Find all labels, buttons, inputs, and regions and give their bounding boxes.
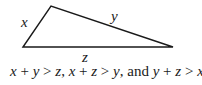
side-label-x: x	[21, 15, 28, 30]
caption-part: x	[10, 63, 17, 79]
triangle-shape	[23, 6, 173, 47]
caption-part: +	[17, 63, 33, 79]
caption-part: x	[197, 63, 202, 79]
caption-part: , and	[120, 63, 153, 79]
caption-part: >	[39, 63, 55, 79]
caption-part: +	[75, 63, 91, 79]
side-label-y: y	[111, 9, 118, 24]
caption-part: +	[159, 63, 175, 79]
caption-part: ,	[61, 63, 69, 79]
caption-part: y	[113, 63, 120, 79]
caption-part: >	[97, 63, 113, 79]
caption-part: >	[181, 63, 197, 79]
triangle-inequality-caption: x + y > z, x + z > y, and y + z > x	[10, 64, 194, 79]
